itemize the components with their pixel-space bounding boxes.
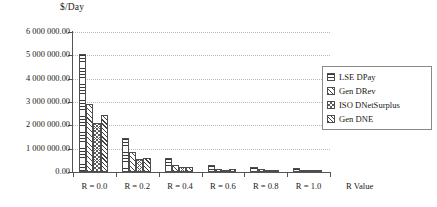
- legend-swatch-icon: [327, 115, 335, 123]
- bar: [222, 170, 229, 172]
- bar: [129, 152, 136, 172]
- bar: [165, 158, 172, 172]
- legend-swatch-icon: [327, 101, 335, 109]
- legend-label: Gen DNE: [339, 115, 373, 124]
- legend-label: ISO DNetSurplus: [339, 101, 400, 110]
- x-tick-mark: [202, 172, 203, 177]
- bar: [136, 159, 143, 172]
- bar: [172, 165, 179, 172]
- legend-item[interactable]: Gen DNE: [327, 112, 427, 126]
- legend-label: Gen DRev: [339, 87, 376, 96]
- y-tick-label: 4 000 000.00: [0, 75, 70, 83]
- bar: [300, 170, 307, 172]
- y-axis-title: $/Day: [60, 2, 84, 12]
- legend-item[interactable]: ISO DNetSurplus: [327, 98, 427, 112]
- x-tick-mark: [287, 172, 288, 177]
- bar: [215, 169, 222, 173]
- bar: [186, 167, 193, 172]
- y-tick-label: 0.00: [0, 168, 70, 176]
- x-tick-mark: [330, 172, 331, 177]
- legend-swatch-icon: [327, 87, 335, 95]
- chart-legend: LSE DPayGen DRevISO DNetSurplusGen DNE: [322, 66, 432, 130]
- bar: [179, 167, 186, 172]
- y-tick-label: 1 000 000.00: [0, 145, 70, 153]
- x-tick-mark: [116, 172, 117, 177]
- legend-label: LSE DPay: [339, 73, 376, 82]
- bar: [79, 54, 86, 172]
- y-tick-label: 6 000 000.00: [0, 28, 70, 36]
- y-tick-label: 5 000 000.00: [0, 51, 70, 59]
- bar-groups: [73, 32, 330, 172]
- bar: [272, 170, 279, 172]
- bar-chart: $/Day 0.001 000 000.002 000 000.003 000 …: [0, 0, 437, 207]
- bar: [143, 158, 150, 172]
- legend-swatch-icon: [327, 73, 335, 81]
- bar: [101, 115, 108, 172]
- plot-area: [73, 32, 330, 172]
- y-tick-label: 2 000 000.00: [0, 121, 70, 129]
- bar: [293, 168, 300, 172]
- bar: [265, 170, 272, 172]
- legend-item[interactable]: LSE DPay: [327, 70, 427, 84]
- bar: [86, 104, 93, 172]
- legend-item[interactable]: Gen DRev: [327, 84, 427, 98]
- bar: [315, 170, 322, 172]
- bar: [122, 138, 129, 172]
- x-tick-mark: [73, 172, 74, 177]
- x-axis-title: R Value: [346, 181, 373, 191]
- x-tick-mark: [244, 172, 245, 177]
- bar: [308, 170, 315, 172]
- bar: [258, 169, 265, 172]
- x-tick-mark: [159, 172, 160, 177]
- y-tick-label: 3 000 000.00: [0, 98, 70, 106]
- bar: [93, 123, 100, 172]
- bar: [208, 165, 215, 172]
- x-group-label: R = 1.0: [279, 181, 339, 191]
- bar: [229, 169, 236, 172]
- bar: [250, 167, 257, 172]
